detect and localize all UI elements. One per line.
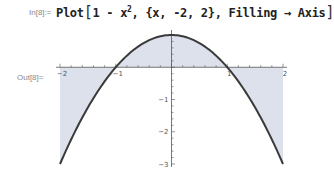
x-tick-label: −1 (113, 70, 123, 78)
y-tick-label: −3 (158, 161, 168, 169)
x-tick-label: −2 (57, 70, 67, 78)
y-tick-label: −1 (158, 96, 168, 104)
x-tick-label: 1 (227, 70, 231, 78)
y-tick-label: −2 (158, 128, 168, 136)
x-tick-label: 2 (283, 70, 287, 78)
